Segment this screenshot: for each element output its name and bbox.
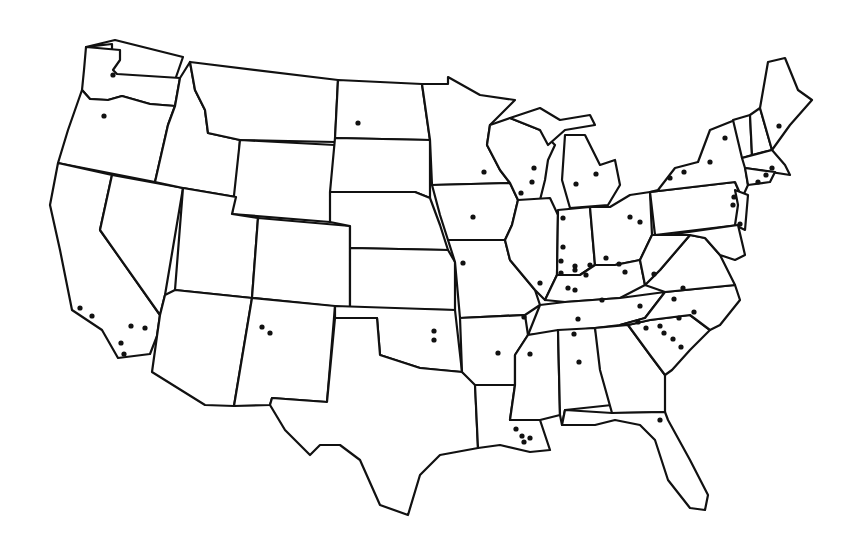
location-dot bbox=[622, 269, 627, 274]
location-dot bbox=[560, 244, 565, 249]
location-dot bbox=[470, 214, 475, 219]
location-dot bbox=[616, 261, 621, 266]
state-kansas bbox=[350, 248, 455, 310]
location-dot bbox=[678, 344, 683, 349]
location-dot bbox=[531, 165, 536, 170]
location-dot bbox=[737, 221, 742, 226]
location-dot bbox=[431, 337, 436, 342]
location-dot bbox=[527, 435, 532, 440]
location-dot bbox=[565, 285, 570, 290]
location-dot bbox=[670, 336, 675, 341]
location-dot bbox=[521, 314, 526, 319]
location-dot bbox=[77, 305, 82, 310]
state-outlines bbox=[50, 40, 812, 515]
location-dot bbox=[776, 123, 781, 128]
location-dot bbox=[558, 270, 563, 275]
location-dot bbox=[635, 319, 640, 324]
location-dot bbox=[576, 359, 581, 364]
location-dot bbox=[657, 417, 662, 422]
location-dot bbox=[518, 190, 523, 195]
location-dot bbox=[637, 303, 642, 308]
location-dot bbox=[643, 325, 648, 330]
us-map bbox=[0, 0, 858, 547]
location-dot bbox=[537, 280, 542, 285]
location-dot bbox=[128, 323, 133, 328]
location-dot bbox=[599, 297, 604, 302]
state-maine bbox=[760, 58, 812, 150]
location-dot bbox=[431, 328, 436, 333]
location-dot bbox=[731, 194, 736, 199]
location-dot bbox=[676, 315, 681, 320]
state-wyoming bbox=[232, 140, 335, 222]
location-dot bbox=[558, 258, 563, 263]
location-dot bbox=[769, 165, 774, 170]
location-dot bbox=[529, 179, 534, 184]
location-dot bbox=[730, 202, 735, 207]
location-dot bbox=[722, 135, 727, 140]
state-montana bbox=[190, 62, 338, 142]
location-dot bbox=[637, 219, 642, 224]
location-dot bbox=[691, 309, 696, 314]
location-dot bbox=[680, 285, 685, 290]
state-michigan bbox=[562, 135, 620, 208]
location-dot bbox=[651, 271, 656, 276]
location-dot bbox=[142, 325, 147, 330]
location-dot bbox=[481, 169, 486, 174]
location-dot bbox=[671, 296, 676, 301]
location-dot bbox=[573, 181, 578, 186]
location-dot bbox=[118, 340, 123, 345]
location-dot bbox=[681, 169, 686, 174]
location-dot bbox=[667, 175, 672, 180]
location-dot bbox=[587, 262, 592, 267]
location-dot bbox=[495, 350, 500, 355]
location-dot bbox=[89, 313, 94, 318]
location-dot bbox=[583, 272, 588, 277]
location-dot bbox=[575, 316, 580, 321]
state-new-mexico bbox=[234, 298, 335, 406]
location-dot bbox=[755, 179, 760, 184]
location-dot bbox=[593, 171, 598, 176]
state-south-dakota bbox=[330, 138, 430, 198]
location-dot bbox=[661, 330, 666, 335]
location-dot bbox=[267, 330, 272, 335]
state-florida bbox=[562, 410, 708, 510]
location-dot bbox=[101, 113, 106, 118]
location-dot bbox=[603, 255, 608, 260]
location-dot bbox=[657, 323, 662, 328]
location-dot bbox=[355, 120, 360, 125]
location-dot bbox=[521, 439, 526, 444]
location-dot bbox=[572, 267, 577, 272]
location-dot bbox=[110, 72, 115, 77]
location-dot bbox=[571, 331, 576, 336]
location-dot bbox=[460, 260, 465, 265]
location-dot bbox=[763, 172, 768, 177]
location-dot bbox=[572, 287, 577, 292]
location-dot bbox=[627, 214, 632, 219]
state-iowa bbox=[432, 183, 518, 240]
location-dot bbox=[527, 351, 532, 356]
location-dot bbox=[519, 433, 524, 438]
location-dot bbox=[513, 426, 518, 431]
location-dot bbox=[707, 159, 712, 164]
location-dot bbox=[259, 324, 264, 329]
state-colorado bbox=[252, 218, 350, 308]
location-dot bbox=[560, 215, 565, 220]
location-dot bbox=[121, 351, 126, 356]
state-north-dakota bbox=[335, 80, 430, 140]
